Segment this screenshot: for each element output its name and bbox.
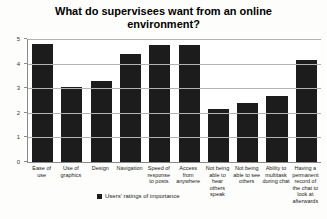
bar-2	[91, 81, 112, 162]
chart-title: What do supervisees want from an online …	[45, 5, 283, 31]
bar-8	[266, 96, 287, 162]
bar-series	[28, 39, 321, 162]
y-tick-label-5: 5	[17, 36, 20, 42]
bar-slot-2	[87, 39, 116, 162]
bar-slot-5	[174, 39, 203, 162]
x-label-4: Speed of response to posts	[144, 165, 173, 185]
legend-label: Users' ratings of importance	[105, 193, 180, 200]
y-tick-label-0: 0	[17, 159, 20, 165]
bar-slot-1	[57, 39, 86, 162]
gridline-4	[28, 64, 321, 65]
bar-slot-8	[262, 39, 291, 162]
bar-1	[61, 87, 82, 162]
bar-3	[120, 54, 141, 162]
chart-frame: What do supervisees want from an online …	[0, 0, 327, 219]
gridline-2	[28, 113, 321, 114]
bar-6	[208, 109, 229, 162]
x-label-2: Design	[86, 165, 115, 172]
bar-7	[237, 103, 258, 162]
bar-0	[32, 44, 53, 162]
gridline-5	[28, 39, 321, 40]
x-label-7: Not being able to see others	[232, 165, 261, 185]
x-label-1: Use of graphics	[56, 165, 85, 178]
x-label-9: Having a permanent record of the chat to…	[291, 165, 320, 204]
legend: Users' ratings of importance	[97, 193, 180, 200]
bar-slot-0	[28, 39, 57, 162]
gridline-3	[28, 88, 321, 89]
x-label-8: Ability to multitask during chat	[261, 165, 290, 185]
bar-9	[296, 60, 317, 162]
bar-slot-3	[116, 39, 145, 162]
x-label-6: Not being able to hear others speak	[203, 165, 232, 198]
bar-slot-7	[233, 39, 262, 162]
bar-slot-6	[204, 39, 233, 162]
gridline-1	[28, 137, 321, 138]
bar-slot-9	[292, 39, 321, 162]
y-tick-label-3: 3	[17, 85, 20, 91]
x-label-5: Access from anywhere	[173, 165, 202, 185]
y-tick-label-4: 4	[17, 61, 20, 67]
bar-slot-4	[145, 39, 174, 162]
x-label-3: Navigation	[115, 165, 144, 172]
y-axis: 012345	[0, 39, 27, 162]
plot-area	[27, 39, 321, 163]
y-tick-label-1: 1	[17, 134, 20, 140]
y-tick-label-2: 2	[17, 110, 20, 116]
x-label-0: Ease of use	[27, 165, 56, 178]
legend-swatch-icon	[97, 194, 102, 199]
